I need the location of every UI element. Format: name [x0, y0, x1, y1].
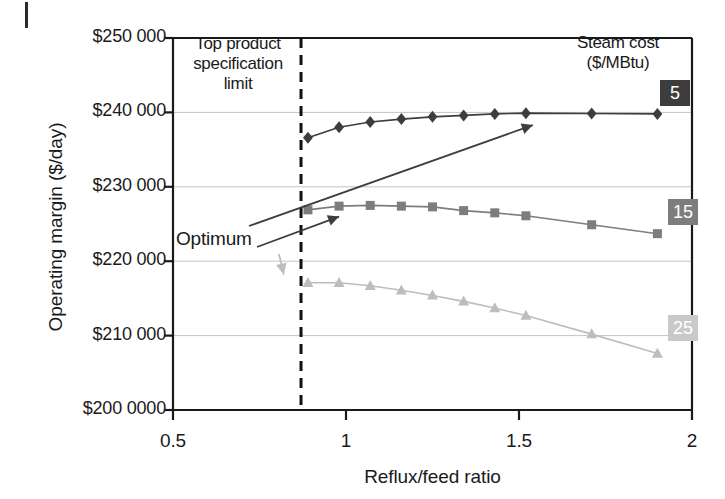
data-point-marker [490, 208, 499, 217]
optimum-arrow-line [257, 217, 339, 247]
data-point-marker [397, 202, 406, 211]
data-point-marker [365, 116, 375, 128]
data-point-marker [490, 108, 500, 120]
x-axis-title: Reflux/feed ratio [173, 466, 692, 488]
y-tick-label: $210 000 [16, 324, 166, 345]
x-tick-label: 1.5 [489, 430, 549, 452]
y-tick-label: $200 0000 [16, 398, 166, 419]
data-point-marker [428, 202, 437, 211]
data-point-marker [653, 229, 662, 238]
x-tick-label: 2 [662, 430, 722, 452]
data-point-marker [521, 107, 531, 119]
data-point-marker [303, 132, 313, 144]
data-point-marker [459, 206, 468, 215]
data-point-marker [652, 108, 662, 120]
series-line [308, 113, 657, 138]
optimum-annotation: Optimum [176, 228, 252, 250]
optimum-arrow-line [249, 125, 533, 226]
data-point-marker [334, 121, 344, 133]
y-tick-label: $250 000 [16, 26, 166, 47]
data-point-marker [459, 109, 469, 121]
data-series-layer [302, 107, 662, 358]
data-point-marker [521, 211, 530, 220]
spec-limit-annotation: Top product specification limit [178, 34, 298, 94]
legend-chip-steam-cost-5: 5 [660, 80, 690, 106]
y-tick-label: $230 000 [16, 175, 166, 196]
legend-chip-steam-cost-25: 25 [668, 315, 698, 341]
optimum-arrow-head [276, 263, 287, 275]
legend-title: Steam cost ($/MBtu) [548, 33, 688, 73]
optimum-arrows [249, 124, 533, 275]
legend-chip-steam-cost-15: 15 [668, 199, 698, 225]
y-axis-tick-labels: $200 0000$210 000$220 000$230 000$240 00… [8, 0, 166, 499]
data-point-marker [335, 202, 344, 211]
series-15 [303, 201, 661, 238]
operating-margin-chart: Operating margin ($/day) $200 0000$210 0… [0, 0, 725, 499]
series-line [308, 283, 657, 354]
data-point-marker [396, 113, 406, 125]
x-tick-label: 1 [316, 430, 376, 452]
y-tick-label: $220 000 [16, 249, 166, 270]
y-tick-label: $240 000 [16, 100, 166, 121]
data-point-marker [366, 201, 375, 210]
series-25 [302, 277, 662, 358]
x-tick-label: 0.5 [143, 430, 203, 452]
data-point-marker [587, 220, 596, 229]
series-line [308, 205, 657, 233]
data-point-marker [587, 108, 597, 120]
